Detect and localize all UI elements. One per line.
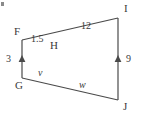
segment-GJ (22, 78, 118, 100)
measure-label-IJ: 9 (126, 54, 131, 64)
vertex-label-H: H (50, 40, 58, 51)
ij-arrow-tick-icon (115, 55, 122, 62)
figure-drawing-canvas (0, 0, 143, 118)
vertex-label-J: J (123, 101, 127, 112)
vertex-label-G: G (15, 80, 23, 91)
measure-label-FG: 3 (6, 54, 11, 64)
geometry-figure: F G H I J 1.5 12 3 9 v w (0, 0, 143, 118)
variable-label-HJ: w (79, 80, 86, 90)
variable-label-GH: v (38, 68, 42, 78)
vertex-label-F: F (14, 26, 20, 37)
measure-label-FH: 1.5 (31, 34, 44, 44)
fg-arrow-tick-icon (19, 55, 26, 62)
vertex-label-I: I (124, 3, 128, 14)
measure-label-HI: 12 (81, 21, 91, 31)
